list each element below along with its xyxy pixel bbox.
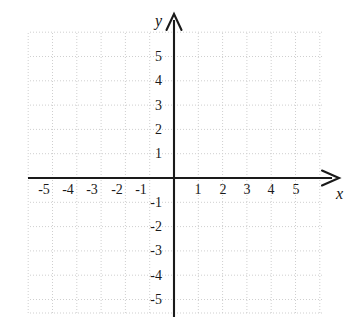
x-tick-label-minus-1: -1: [129, 183, 153, 197]
x-tick-label-4: 4: [259, 183, 283, 197]
y-tick-label-3: 3: [138, 99, 162, 113]
y-tick-label-minus-5: -5: [136, 293, 162, 307]
grid-lines: [28, 32, 322, 313]
x-tick-label-1: 1: [186, 183, 210, 197]
x-tick-label-5: 5: [284, 183, 308, 197]
x-tick-label-minus-2: -2: [105, 183, 129, 197]
x-axis-label: x: [336, 186, 343, 202]
coordinate-plane-figure: 5 4 3 2 1 -1 -2 -3 -4 -5 -5 -4 -3 -2 -1 …: [0, 0, 356, 334]
x-tick-label-minus-5: -5: [32, 183, 56, 197]
y-tick-label-4: 4: [138, 74, 162, 88]
y-tick-label-5: 5: [138, 50, 162, 64]
x-tick-label-2: 2: [211, 183, 235, 197]
y-axis-label: y: [155, 13, 162, 29]
x-tick-label-3: 3: [235, 183, 259, 197]
x-tick-label-minus-4: -4: [56, 183, 80, 197]
x-tick-label-minus-3: -3: [80, 183, 104, 197]
y-tick-label-2: 2: [138, 123, 162, 137]
plot-svg: [0, 0, 356, 334]
y-tick-label-minus-4: -4: [136, 269, 162, 283]
y-tick-label-minus-2: -2: [136, 220, 162, 234]
y-tick-label-minus-3: -3: [136, 244, 162, 258]
y-tick-label-1: 1: [138, 147, 162, 161]
y-tick-label-minus-1: -1: [136, 196, 162, 210]
